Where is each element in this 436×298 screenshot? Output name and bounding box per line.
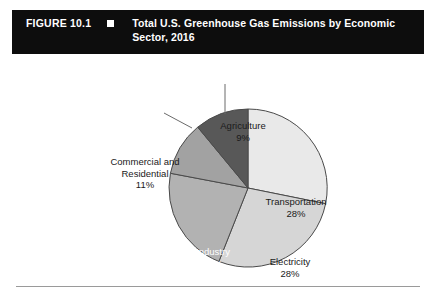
pie-label-electricity-value: 28%	[248, 268, 332, 280]
pie-label-agriculture: Agriculture 9%	[198, 120, 288, 143]
pie-label-transportation-value: 28%	[248, 208, 344, 220]
pie-label-commercial-residential: Commercial and Residential 11%	[90, 156, 200, 191]
figure-title-line-1: Total U.S. Greenhouse Gas Emissions by E…	[132, 16, 414, 30]
pie-label-transportation: Transportation 28%	[248, 196, 344, 219]
figure-title: Total U.S. Greenhouse Gas Emissions by E…	[132, 16, 414, 44]
pie-label-agriculture-name: Agriculture	[198, 120, 288, 132]
pie-label-electricity-name: Electricity	[248, 256, 332, 268]
bottom-divider-rule	[16, 286, 420, 287]
pie-label-agriculture-value: 9%	[198, 132, 288, 144]
pie-label-commercial-residential-name-line-1: Commercial and	[90, 156, 200, 168]
figure-number-label: FIGURE 10.1	[26, 16, 91, 30]
black-square-marker-icon	[107, 20, 114, 27]
pie-label-industry-name: Industry	[180, 246, 246, 258]
pie-label-electricity: Electricity 28%	[248, 256, 332, 279]
figure-header-row: FIGURE 10.1 Total U.S. Greenhouse Gas Em…	[26, 16, 414, 44]
pie-label-commercial-residential-value: 11%	[90, 179, 200, 191]
pie-label-commercial-residential-name-line-2: Residential	[90, 168, 200, 180]
leader-line-commercial-residential	[164, 113, 192, 128]
pie-label-industry: Industry 22%	[180, 246, 246, 269]
figure-header-bar: FIGURE 10.1 Total U.S. Greenhouse Gas Em…	[12, 10, 424, 54]
pie-label-transportation-name: Transportation	[248, 196, 344, 208]
figure-title-line-2: Sector, 2016	[132, 30, 414, 44]
figure-container: FIGURE 10.1 Total U.S. Greenhouse Gas Em…	[0, 0, 436, 298]
pie-chart-area: Agriculture 9% Commercial and Residentia…	[12, 56, 424, 282]
pie-label-industry-value: 22%	[180, 258, 246, 270]
